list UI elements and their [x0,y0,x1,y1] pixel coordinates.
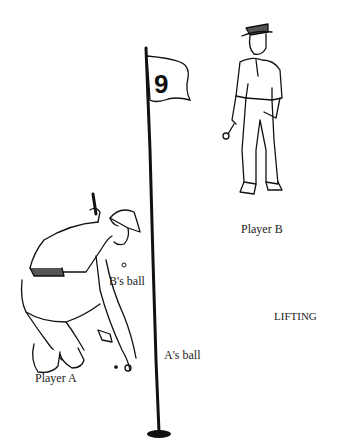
lifting-title: LIFTING [274,310,317,322]
b-ball [122,263,126,267]
flag-number: 9 [154,69,168,99]
player-b-label: Player B [241,222,283,237]
a-ball-label: A's ball [164,348,201,363]
b-ball-label: B's ball [109,274,145,289]
flagstick [146,48,171,438]
cup-hole [147,430,171,438]
player-a-label: Player A [35,371,77,386]
flag: 9 [147,56,190,102]
player-b-figure [223,24,282,194]
